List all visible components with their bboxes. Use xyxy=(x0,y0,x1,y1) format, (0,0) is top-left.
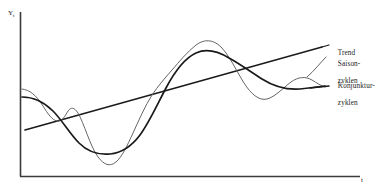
series-trend-line xyxy=(25,47,322,130)
chart-plot-area xyxy=(0,0,381,189)
y-axis-label: Yt xyxy=(8,9,14,18)
series-konjunktur-leader xyxy=(310,86,329,88)
x-axis-label: t xyxy=(361,176,363,184)
legend-item-saison-line1: Saison- xyxy=(338,60,361,68)
series-konjunktur-line xyxy=(22,51,325,154)
chart-figure: Yt t Trend Saison- zyklen Konjunktur- zy… xyxy=(0,0,381,189)
legend-item-konjunktur-line2: zyklen xyxy=(338,99,358,107)
series-saison-leader xyxy=(307,57,326,77)
series-trend-leader xyxy=(322,45,329,47)
legend-item-konjunktur-line1: Konjunktur- xyxy=(338,82,375,90)
legend-item-konjunktur: Konjunktur- zyklen xyxy=(330,74,375,115)
